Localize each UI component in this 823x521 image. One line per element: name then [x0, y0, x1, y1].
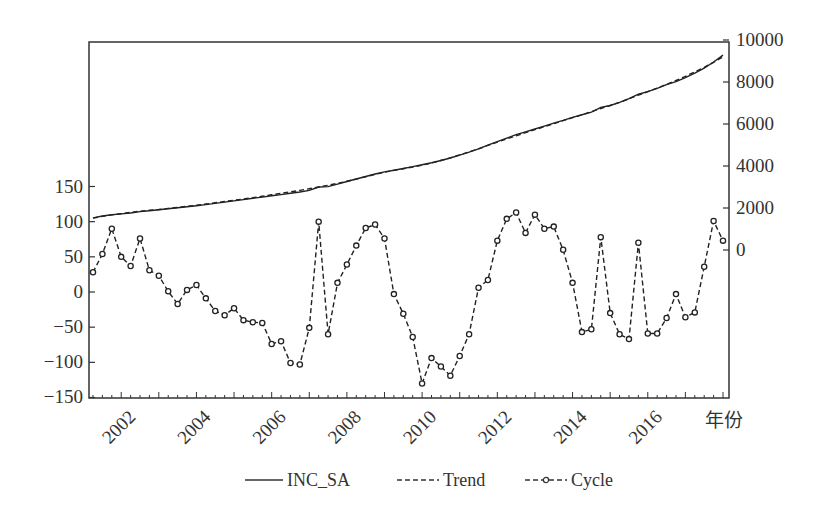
cycle-marker — [542, 226, 547, 231]
cycle-marker — [438, 364, 443, 369]
cycle-marker — [683, 315, 688, 320]
cycle-marker — [598, 235, 603, 240]
right-y-axis: 1000080006000400020000 — [723, 29, 784, 260]
cycle-marker — [551, 224, 556, 229]
cycle-marker — [307, 325, 312, 330]
cycle-marker — [476, 285, 481, 290]
cycle-marker — [260, 320, 265, 325]
cycle-marker — [391, 292, 396, 297]
cycle-marker — [504, 216, 509, 221]
cycle-marker — [692, 310, 697, 315]
legend-marker-cycle — [543, 477, 548, 482]
left-tick-label: 150 — [55, 176, 84, 197]
cycle-marker — [410, 334, 415, 339]
cycle-marker — [166, 289, 171, 294]
series-line-trend — [93, 57, 723, 218]
cycle-marker — [325, 332, 330, 337]
cycle-marker — [241, 318, 246, 323]
cycle-marker — [278, 339, 283, 344]
cycle-marker — [147, 268, 152, 273]
x-tick-label: 2010 — [399, 406, 441, 448]
cycle-marker — [589, 327, 594, 332]
right-tick-label: 2000 — [736, 197, 774, 218]
x-tick-label: 2002 — [98, 406, 140, 448]
cycle-marker — [570, 280, 575, 285]
cycle-marker — [457, 353, 462, 358]
cycle-marker — [354, 243, 359, 248]
cycle-marker — [655, 331, 660, 336]
cycle-marker — [213, 308, 218, 313]
cycle-marker — [231, 306, 236, 311]
cycle-marker — [316, 219, 321, 224]
left-tick-label: 50 — [64, 246, 83, 267]
plot-area — [89, 42, 729, 398]
cycle-marker — [523, 230, 528, 235]
cycle-marker — [645, 331, 650, 336]
cycle-marker — [363, 225, 368, 230]
cycle-marker — [420, 381, 425, 386]
left-tick-label: −50 — [53, 316, 83, 337]
cycle-marker — [617, 332, 622, 337]
cycle-marker — [467, 332, 472, 337]
x-tick-label: 2004 — [173, 406, 215, 448]
x-tick-label: 2008 — [323, 406, 365, 448]
cycle-marker — [579, 329, 584, 334]
x-tick-label: 2014 — [549, 406, 591, 448]
cycle-marker — [269, 341, 274, 346]
cycle-marker — [664, 315, 669, 320]
cycle-marker — [514, 210, 519, 215]
x-tick-label: 2016 — [624, 406, 666, 448]
cycle-marker — [401, 311, 406, 316]
cycle-marker — [100, 251, 105, 256]
legend-label-trend: Trend — [443, 470, 485, 490]
cycle-marker — [335, 280, 340, 285]
cycle-marker — [288, 360, 293, 365]
right-tick-label: 4000 — [736, 155, 774, 176]
cycle-marker — [485, 277, 490, 282]
cycle-marker — [119, 254, 124, 259]
cycle-marker — [194, 282, 199, 287]
x-axis: 20022004200620082010201220142016年份 — [93, 392, 743, 448]
right-tick-label: 10000 — [736, 29, 784, 50]
cycle-marker — [344, 262, 349, 267]
right-tick-label: 6000 — [736, 113, 774, 134]
x-tick-label: 2006 — [248, 406, 290, 448]
cycle-marker — [448, 373, 453, 378]
cycle-marker — [495, 238, 500, 243]
cycle-marker — [222, 313, 227, 318]
cycle-marker — [203, 296, 208, 301]
chart-canvas: 150100500−50−100−150 1000080006000400020… — [0, 0, 823, 521]
cycle-marker — [137, 236, 142, 241]
cycle-marker — [297, 362, 302, 367]
right-tick-label: 0 — [736, 239, 746, 260]
cycle-marker — [382, 236, 387, 241]
cycle-marker — [372, 222, 377, 227]
cycle-marker — [250, 320, 255, 325]
left-y-axis: 150100500−50−100−150 — [44, 176, 95, 408]
series-line-cycle — [93, 213, 723, 384]
cycle-marker — [128, 263, 133, 268]
cycle-marker — [429, 356, 434, 361]
left-tick-label: −100 — [44, 351, 83, 372]
x-axis-label: 年份 — [705, 410, 743, 431]
cycle-marker — [720, 238, 725, 243]
cycle-marker — [626, 337, 631, 342]
left-tick-label: −150 — [44, 386, 83, 407]
cycle-marker — [636, 240, 641, 245]
cycle-marker — [156, 273, 161, 278]
left-tick-label: 100 — [55, 211, 84, 232]
cycle-marker — [561, 247, 566, 252]
legend: INC_SA Trend Cycle — [245, 470, 613, 490]
cycle-marker — [90, 270, 95, 275]
cycle-marker — [673, 292, 678, 297]
cycle-marker — [184, 287, 189, 292]
cycle-marker — [702, 264, 707, 269]
legend-label-cycle: Cycle — [571, 470, 613, 490]
left-tick-label: 0 — [74, 281, 84, 302]
right-tick-label: 8000 — [736, 71, 774, 92]
cycle-marker — [109, 226, 114, 231]
cycle-marker — [175, 301, 180, 306]
cycle-marker — [711, 218, 716, 223]
series-line-inc-sa — [93, 55, 723, 218]
cycle-marker — [608, 310, 613, 315]
